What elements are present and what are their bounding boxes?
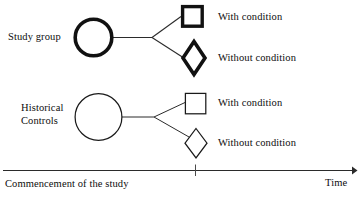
historical-controls-with-condition-square	[185, 93, 205, 113]
historical-controls-branch-line-lower	[154, 117, 189, 137]
historical-controls-without-condition-label: Without condition	[218, 137, 296, 150]
time-axis-arrowhead-icon	[352, 167, 358, 175]
historical-controls-with-condition-label: With condition	[218, 97, 282, 110]
historical-controls-without-condition-diamond	[185, 129, 207, 158]
study-group-branch	[113, 17, 187, 61]
historical-controls-circle-node	[75, 94, 122, 141]
study-group-circle-node	[75, 19, 112, 56]
study-group-with-condition-square	[183, 7, 203, 27]
study-group-label: Study group	[8, 31, 61, 44]
diagram-vector-layer	[0, 0, 359, 198]
historical-controls-branch-line-upper	[154, 103, 185, 118]
axis-start-label: Commencement of the study	[5, 178, 129, 191]
time-axis	[3, 165, 358, 177]
historical-controls-branch	[122, 103, 189, 138]
study-group-branch-line-upper	[152, 17, 181, 38]
study-group-with-condition-label: With condition	[218, 11, 282, 24]
study-group-branch-line-lower	[152, 38, 187, 61]
study-design-diagram: Study group Historical Controls With con…	[0, 0, 359, 198]
axis-end-label: Time	[325, 177, 347, 190]
study-group-without-condition-diamond	[183, 42, 205, 75]
study-group-without-condition-label: Without condition	[218, 52, 296, 65]
historical-controls-label: Historical Controls	[21, 102, 63, 127]
